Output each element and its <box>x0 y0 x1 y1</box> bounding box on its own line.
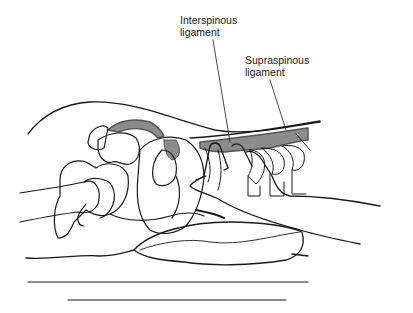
label-line2: ligament <box>180 26 237 38</box>
sacral-ligament <box>108 120 164 138</box>
label-line1: Supraspinous <box>245 54 309 66</box>
table-edge <box>26 250 134 258</box>
supraspinous-leader <box>270 80 286 130</box>
interspinous-ligament-fill <box>164 140 179 160</box>
body-contour <box>28 102 320 134</box>
interspinous-ligament-label: Interspinous ligament <box>180 14 237 38</box>
anatomy-illustration <box>0 0 413 313</box>
pelvis <box>54 126 204 238</box>
interspinous-leader <box>213 40 230 142</box>
pillow-crease <box>140 232 300 250</box>
examiner-hand <box>190 143 380 244</box>
pillow <box>134 222 303 265</box>
supraspinous-ligament-label: Supraspinous ligament <box>245 54 309 78</box>
label-line1: Interspinous <box>180 14 237 26</box>
label-line2: ligament <box>245 66 309 78</box>
